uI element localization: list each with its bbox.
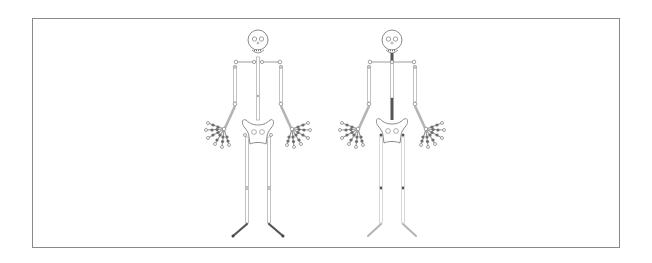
foot-bones-highlighted <box>233 224 283 236</box>
figure-description: Two skeleton rig diagrams side by side <box>0 0 1 1</box>
leg-bones <box>380 137 405 223</box>
spine-bone <box>257 57 260 120</box>
skeleton-left <box>205 30 312 238</box>
leg-bones <box>246 137 271 223</box>
skeleton-right <box>339 30 446 236</box>
skeleton-diagram-canvas <box>0 0 652 263</box>
skull-icon <box>248 30 268 53</box>
skull-icon <box>382 30 402 53</box>
foot-bones <box>368 224 416 236</box>
